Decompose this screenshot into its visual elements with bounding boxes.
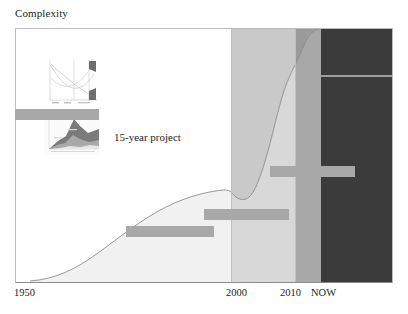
- project-bar-medium: [204, 209, 289, 220]
- plot-inner: [16, 29, 392, 282]
- page-title: Complexity: [15, 7, 68, 19]
- x-tick-now: NOW: [311, 287, 336, 298]
- highlight-streak: [321, 75, 392, 77]
- project-bar-short: [270, 166, 355, 177]
- x-tick-2010: 2010: [280, 287, 301, 298]
- plot-area: [15, 28, 393, 283]
- legend-project-bar: [15, 109, 99, 120]
- project-bar-long: [126, 226, 214, 237]
- x-tick-1950: 1950: [14, 287, 35, 298]
- gridline-2010: [295, 29, 296, 282]
- x-tick-2000: 2000: [226, 287, 247, 298]
- legend-project-label: 15-year project: [114, 131, 181, 143]
- gridline-2000: [231, 29, 232, 282]
- inset-line-chart-graphic: [44, 58, 100, 108]
- inset-line-chart: [44, 58, 100, 108]
- complexity-growth-figure: Complexity: [0, 0, 408, 314]
